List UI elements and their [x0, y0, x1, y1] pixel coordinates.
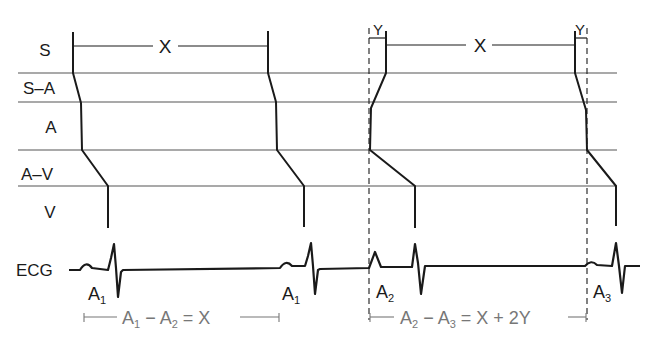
beat-label-a3: A3: [593, 282, 611, 304]
equation-left: A1 − A2 = X: [122, 308, 210, 330]
beat-labels: A1 A1 A2 A3: [88, 282, 611, 306]
conduction-path-4: [575, 31, 616, 226]
interval-y-left-label: Y: [373, 21, 383, 38]
sa-block-ladder-diagram: S S–A A A–V V ECG X X Y Y: [0, 0, 648, 338]
row-label-ecg: ECG: [16, 261, 53, 280]
conduction-path-1: [73, 32, 108, 228]
interval-x-right-label: X: [474, 35, 487, 56]
beat-label-a1-right: A1: [282, 284, 300, 306]
ecg-trace: [69, 243, 640, 297]
interval-y-right-label: Y: [575, 21, 585, 38]
beat-label-a2: A2: [376, 282, 394, 304]
conduction-path-2: [268, 31, 304, 227]
beat-label-a1-left: A1: [88, 284, 106, 306]
equation-right: A2 − A3 = X + 2Y: [400, 308, 531, 330]
row-label-a: A: [45, 118, 57, 137]
dashed-guides: [369, 28, 587, 320]
interval-x-left-label: X: [159, 36, 172, 57]
row-label-v: V: [44, 203, 56, 222]
conduction-paths: [73, 31, 616, 228]
row-label-a-v: A–V: [21, 165, 54, 184]
conduction-path-3: [370, 31, 415, 228]
tier-lines: [18, 73, 617, 186]
row-label-s: S: [39, 41, 50, 60]
row-labels: S S–A A A–V V ECG: [16, 41, 57, 280]
row-label-s-a: S–A: [23, 79, 56, 98]
